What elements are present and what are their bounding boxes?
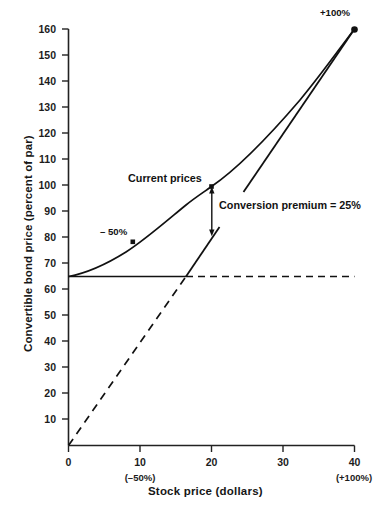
x-tick-label-20: 20 (197, 456, 227, 468)
y-axis-ticks (62, 29, 69, 419)
annotation-up-100: +100% (320, 7, 350, 18)
annotation-conversion-premium: Conversion premium = 25% (219, 199, 361, 211)
x-tick-label-0: 0 (54, 456, 84, 468)
x-sublabel-down-50: (–50%) (110, 472, 170, 483)
y-tick-label-160: 160 (30, 23, 56, 35)
conversion-value-solid-upper (244, 29, 355, 192)
convertible-bond-price-chart: 160 150 140 130 120 110 100 90 80 70 60 … (0, 0, 391, 505)
conversion-premium-arrow (209, 187, 214, 236)
y-tick-label-20: 20 (30, 387, 56, 399)
annotation-down-50: – 50% (100, 226, 127, 237)
x-tick-label-40: 40 (340, 456, 370, 468)
annotation-current-prices: Current prices (128, 172, 202, 184)
marker-down-50 (131, 240, 136, 245)
marker-up-100 (351, 26, 358, 33)
conversion-value-dashed (69, 277, 187, 446)
y-tick-label-30: 30 (30, 361, 56, 373)
y-axis-title: Convertible bond price (percent of par) (22, 135, 34, 352)
y-tick-label-130: 130 (30, 101, 56, 113)
y-tick-label-150: 150 (30, 49, 56, 61)
y-tick-label-10: 10 (30, 413, 56, 425)
x-tick-label-30: 30 (268, 456, 298, 468)
figure-caption (8, 497, 388, 505)
conversion-value-solid-lower (186, 227, 220, 277)
x-sublabel-up-100: (+100%) (324, 472, 384, 483)
x-axis-title: Stock price (dollars) (148, 485, 263, 497)
x-axis-ticks (69, 446, 355, 453)
chart-canvas (0, 0, 391, 505)
y-tick-label-140: 140 (30, 75, 56, 87)
x-tick-label-10: 10 (125, 456, 155, 468)
